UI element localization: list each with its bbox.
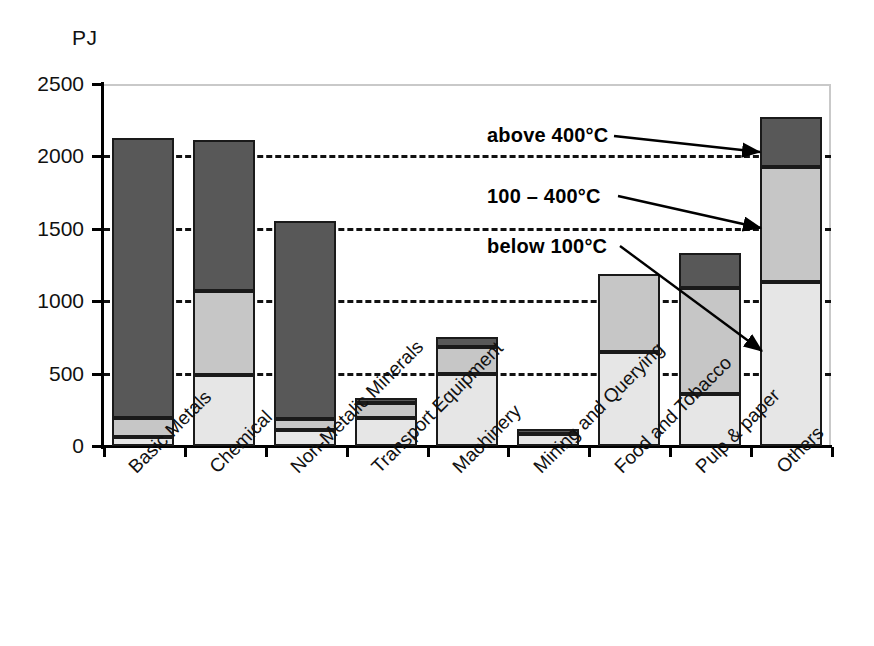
annotation-100-400: 100 – 400°C xyxy=(487,185,601,208)
y-axis-tick xyxy=(92,228,104,231)
bar-non-metalic-minerals[interactable] xyxy=(274,84,336,446)
bar-segment-above xyxy=(760,117,822,167)
x-axis-tick xyxy=(103,447,106,457)
y-axis-tick xyxy=(92,373,104,376)
x-axis-tick xyxy=(346,447,349,457)
x-axis-tick xyxy=(588,447,591,457)
y-axis-tick xyxy=(92,300,104,303)
y-axis-tick-label: 2500 xyxy=(37,73,84,94)
y-axis-tick xyxy=(92,83,104,86)
bar-basic-metals[interactable] xyxy=(112,84,174,446)
y-axis-tick-label: 2000 xyxy=(37,145,84,166)
x-axis-tick xyxy=(750,447,753,457)
stacked-bar-chart: PJ 05001000150020002500 Basic MetalsChem… xyxy=(0,0,874,646)
bar-segment-above xyxy=(679,253,741,288)
y-axis-tick-label: 0 xyxy=(72,435,84,456)
x-axis-tick xyxy=(184,447,187,457)
x-axis-tick xyxy=(427,447,430,457)
y-axis-tick-label: 500 xyxy=(49,363,84,384)
x-axis-tick xyxy=(265,447,268,457)
annotation-below-100: below 100°C xyxy=(487,235,607,258)
y-axis-tick xyxy=(92,155,104,158)
y-axis-unit-label: PJ xyxy=(72,26,98,50)
bar-segment-above xyxy=(112,138,174,418)
x-axis-tick xyxy=(507,447,510,457)
bar-segment-mid xyxy=(760,167,822,283)
annotation-above-400: above 400°C xyxy=(487,124,608,147)
bar-segment-mid xyxy=(193,291,255,375)
x-axis-tick xyxy=(669,447,672,457)
y-axis-tick-label: 1000 xyxy=(37,290,84,311)
y-axis-line xyxy=(101,82,104,449)
y-axis-tick-label: 1500 xyxy=(37,218,84,239)
bar-segment-above xyxy=(193,140,255,291)
bar-segment-above xyxy=(274,221,336,419)
x-axis-tick xyxy=(831,447,834,457)
